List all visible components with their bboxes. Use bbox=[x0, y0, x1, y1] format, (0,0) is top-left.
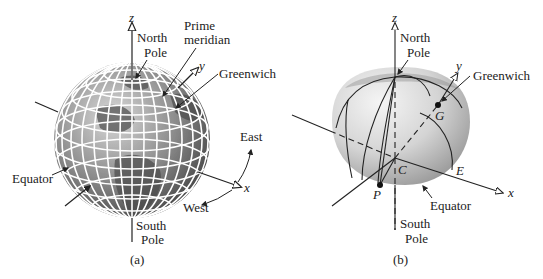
point-p-label: P bbox=[372, 187, 381, 202]
equator-pointer-b bbox=[423, 186, 432, 198]
west-label: West bbox=[183, 200, 209, 215]
south-pole-label-a-line2: Pole bbox=[141, 232, 164, 247]
equator-label-a: Equator bbox=[12, 171, 54, 186]
y-axis-label-b: y bbox=[454, 58, 462, 73]
east-arrow bbox=[238, 150, 251, 182]
figure-a: z y x North Pole Prime meridian Greenwic… bbox=[12, 10, 277, 267]
z-axis-label-b: z bbox=[391, 10, 397, 25]
prime-meridian-label-line2: meridian bbox=[184, 32, 231, 47]
x-axis-back bbox=[292, 115, 330, 131]
equator-label-b: Equator bbox=[430, 198, 472, 213]
north-pole-label-b-line2: Pole bbox=[407, 45, 430, 60]
prime-meridian-label-line1: Prime bbox=[184, 18, 215, 33]
point-e-label: E bbox=[455, 163, 464, 178]
point-c-label: C bbox=[398, 162, 407, 177]
greenwich-label-b: Greenwich bbox=[473, 68, 531, 83]
greenwich-label-a: Greenwich bbox=[219, 66, 277, 81]
caption-a: (a) bbox=[130, 252, 144, 267]
x-axis-label: x bbox=[243, 180, 250, 195]
y-axis-label: y bbox=[197, 58, 205, 73]
x-axis bbox=[198, 172, 238, 186]
axis-line-back bbox=[35, 102, 58, 112]
z-axis-label: z bbox=[128, 10, 134, 25]
x-axis-label-b: x bbox=[507, 185, 514, 200]
south-pole-label-b-line2: Pole bbox=[405, 231, 428, 246]
north-pole-label-b-line1: North bbox=[400, 30, 431, 45]
point-g-label: G bbox=[435, 108, 445, 123]
south-pole-label-a-line1: South bbox=[136, 218, 167, 233]
north-pole-label-a-line2: Pole bbox=[144, 45, 167, 60]
caption-b: (b) bbox=[393, 252, 408, 267]
south-pole-label-b-line1: South bbox=[400, 216, 431, 231]
north-pole-label-a-line1: North bbox=[137, 30, 168, 45]
east-label: East bbox=[240, 129, 263, 144]
figure-b: x z y G C E P North Pole Greenwich Equat… bbox=[292, 10, 531, 267]
figure-canvas: z y x North Pole Prime meridian Greenwic… bbox=[0, 0, 543, 279]
